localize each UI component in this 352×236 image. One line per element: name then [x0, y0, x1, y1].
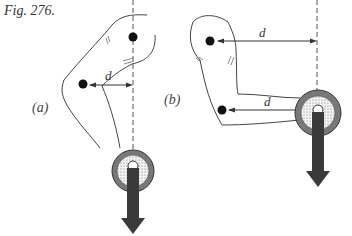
- arrowhead-right: [126, 83, 133, 88]
- panel-a: d: [62, 0, 155, 234]
- elbow-joint-dot: [218, 106, 227, 115]
- muscle-mark: [228, 56, 234, 65]
- weight-force-arrowhead: [121, 218, 145, 234]
- muscle-mark: [123, 58, 134, 64]
- arrowhead-left: [217, 39, 224, 44]
- elbow-joint-dot: [79, 80, 88, 89]
- distance-label-a: d: [105, 68, 112, 83]
- arrowhead-left: [228, 108, 235, 113]
- arrowhead-left: [89, 83, 96, 88]
- shoulder-joint-dot: [206, 37, 215, 46]
- weight-force-arrow-shaft: [312, 112, 324, 172]
- distance-label-b-upper: d: [259, 25, 266, 40]
- panel-b: d d: [190, 0, 341, 187]
- weight-force-arrowhead: [306, 171, 330, 187]
- upper-arm-back-top: [190, 22, 200, 60]
- forearm-outline: [200, 60, 300, 125]
- shoulder-joint-dot: [129, 33, 138, 42]
- arrowhead-right: [310, 39, 317, 44]
- muscle-mark: [106, 36, 110, 44]
- figure-canvas: d d d: [0, 0, 352, 236]
- upper-arm-front-outline: [62, 25, 112, 148]
- upper-arm-inner-outline: [236, 50, 300, 98]
- shoulder-outline: [193, 16, 236, 50]
- shoulder-outline: [112, 15, 147, 25]
- weight-force-arrow-shaft: [127, 168, 139, 220]
- distance-label-b-lower: d: [264, 94, 271, 109]
